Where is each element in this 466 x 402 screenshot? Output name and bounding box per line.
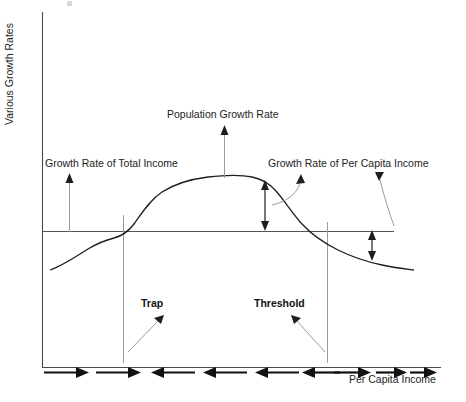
x-axis-title: Per Capita Income [349, 373, 436, 385]
flow-arrow-right-1 [44, 367, 89, 378]
total-income-growth-curve [50, 176, 414, 271]
label-threshold: Threshold [254, 297, 305, 309]
trap-arrowhead-icon [154, 315, 164, 324]
scan-artifact [67, 1, 72, 6]
growth-rates-chart: Growth Rate of Total Income Population G… [0, 0, 466, 402]
chart-canvas: Growth Rate of Total Income Population G… [0, 0, 466, 402]
negative-gap-arrowhead-down-icon [368, 251, 376, 261]
per-capita-positive-arrowhead-icon [296, 174, 305, 184]
trap-leader-line [128, 321, 158, 352]
label-growth-rate-per-capita-income: Growth Rate of Per Capita Income [268, 157, 429, 169]
positive-gap-arrowhead-down-icon [261, 221, 269, 231]
positive-gap-arrowhead-up-icon [261, 180, 269, 190]
per-capita-negative-arrowhead-icon [375, 172, 384, 181]
y-axis-title: Various Growth Rates [3, 23, 15, 125]
flow-arrow-right-2 [96, 367, 141, 378]
label-trap: Trap [141, 297, 163, 309]
per-capita-positive-leader-curve [272, 184, 300, 205]
label-growth-rate-total-income: Growth Rate of Total Income [45, 157, 178, 169]
label-population-growth-rate: Population Growth Rate [167, 108, 279, 120]
flow-arrow-left-2 [203, 367, 247, 378]
flow-arrow-left-3 [255, 367, 299, 378]
population-growth-arrowhead-icon [221, 125, 229, 135]
threshold-leader-line [297, 321, 325, 352]
per-capita-negative-leader-curve [380, 180, 394, 226]
total-income-arrowhead-icon [66, 173, 74, 183]
threshold-arrowhead-icon [291, 315, 301, 324]
flow-arrow-left-1 [151, 367, 195, 378]
